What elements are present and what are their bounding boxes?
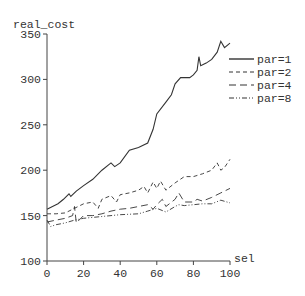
legend-label: par=4: [257, 79, 292, 92]
y-tick-label: 250: [20, 119, 41, 132]
series-line-par-1: [47, 41, 230, 209]
x-tick-label: 60: [150, 267, 164, 280]
y-tick-label: 100: [20, 255, 41, 268]
y-axis-label: real_cost: [13, 18, 75, 31]
series-line-par-2: [47, 159, 230, 214]
x-tick-label: 40: [113, 267, 127, 280]
x-tick-label: 0: [44, 267, 51, 280]
line-chart: 100150200250300350 020406080100 real_cos…: [0, 0, 305, 296]
x-tick-label: 100: [220, 267, 241, 280]
x-axis-label: sel: [234, 252, 255, 265]
y-tick-label: 150: [20, 210, 41, 223]
y-tick-label: 300: [20, 73, 41, 86]
legend: par=1par=2par=4par=8: [229, 53, 292, 105]
legend-label: par=8: [257, 92, 292, 105]
y-tick-label: 200: [20, 164, 41, 177]
x-tick-label: 80: [186, 267, 200, 280]
legend-label: par=2: [257, 66, 292, 79]
legend-label: par=1: [257, 53, 292, 66]
plot-area: [47, 41, 230, 226]
x-ticks: 020406080100: [44, 261, 241, 280]
x-tick-label: 20: [77, 267, 91, 280]
y-ticks: 100150200250300350: [20, 28, 47, 268]
series-line-par-8: [47, 200, 230, 226]
